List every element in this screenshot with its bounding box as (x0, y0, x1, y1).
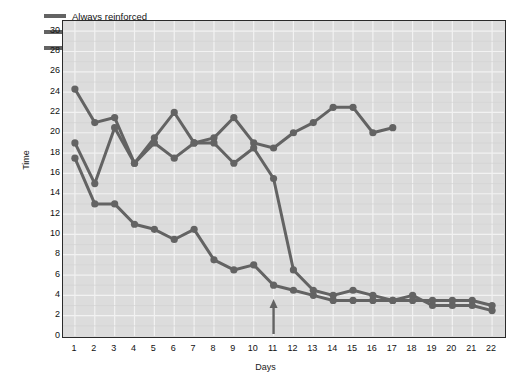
data-point (91, 180, 98, 187)
data-point (270, 282, 277, 289)
series-line-1 (75, 89, 393, 163)
data-point (250, 144, 257, 151)
data-point (230, 114, 237, 121)
data-point (469, 297, 476, 304)
data-point (230, 266, 237, 273)
data-point (71, 155, 78, 162)
data-point (330, 104, 337, 111)
data-point (349, 104, 356, 111)
annotation-arrow-head (270, 299, 278, 308)
plot-area (62, 20, 506, 338)
y-tick-label: 22 (34, 107, 60, 116)
data-point (290, 266, 297, 273)
y-tick-label: 30 (34, 26, 60, 35)
y-axis-tick-labels: 024681012141618202224262830 (20, 0, 60, 385)
data-point (369, 129, 376, 136)
data-point (91, 119, 98, 126)
data-point (210, 139, 217, 146)
y-axis-title: Time (21, 140, 31, 180)
y-tick-label: 0 (34, 331, 60, 340)
data-point (131, 221, 138, 228)
data-point (210, 256, 217, 263)
y-tick-label: 8 (34, 249, 60, 258)
data-point (270, 144, 277, 151)
data-point (290, 287, 297, 294)
data-point (230, 160, 237, 167)
data-point (369, 292, 376, 299)
data-point (310, 119, 317, 126)
data-point (290, 129, 297, 136)
data-point (71, 85, 78, 92)
series-line-2 (75, 128, 492, 306)
data-point (171, 236, 178, 243)
data-point (330, 292, 337, 299)
x-tick-label: 22 (479, 343, 503, 353)
data-point (250, 261, 257, 268)
data-point (151, 226, 158, 233)
data-point (349, 297, 356, 304)
data-point (389, 297, 396, 304)
data-point (270, 175, 277, 182)
data-point (488, 302, 495, 309)
data-point (111, 200, 118, 207)
y-tick-label: 24 (34, 87, 60, 96)
y-tick-label: 18 (34, 148, 60, 157)
data-point (191, 226, 198, 233)
data-point (171, 109, 178, 116)
y-tick-label: 10 (34, 229, 60, 238)
data-point (349, 287, 356, 294)
chart-figure: Always reinforced Never reinforced Reinf… (0, 0, 531, 385)
data-point (111, 114, 118, 121)
series-line-0 (75, 158, 492, 310)
y-tick-label: 16 (34, 168, 60, 177)
data-point (429, 297, 436, 304)
y-tick-label: 26 (34, 66, 60, 75)
data-point (71, 139, 78, 146)
data-point (91, 200, 98, 207)
y-tick-label: 14 (34, 188, 60, 197)
y-tick-label: 2 (34, 310, 60, 319)
data-point (151, 139, 158, 146)
data-point (409, 297, 416, 304)
data-point (389, 124, 396, 131)
x-axis-title: Days (0, 362, 531, 372)
y-tick-label: 6 (34, 270, 60, 279)
data-point (191, 139, 198, 146)
data-series-layer (63, 21, 504, 336)
y-tick-label: 4 (34, 290, 60, 299)
data-point (310, 287, 317, 294)
y-tick-label: 20 (34, 127, 60, 136)
y-tick-label: 28 (34, 46, 60, 55)
y-tick-label: 12 (34, 209, 60, 218)
data-point (131, 160, 138, 167)
data-point (171, 155, 178, 162)
data-point (449, 297, 456, 304)
data-point (111, 124, 118, 131)
